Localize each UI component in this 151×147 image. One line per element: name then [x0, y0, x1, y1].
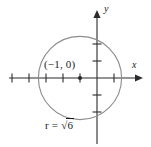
circle-graph-figure: (−1, 0) r = √6 x y — [0, 0, 151, 147]
radius-radicand: 6 — [66, 118, 74, 131]
center-point-label: (−1, 0) — [44, 59, 75, 70]
x-axis-group — [9, 74, 143, 83]
radius-label: r = √6 — [45, 120, 74, 131]
y-axis-group — [93, 10, 102, 144]
y-axis-arrowhead — [93, 10, 100, 18]
center-point-marker — [78, 76, 82, 80]
graph-canvas — [0, 0, 151, 147]
radius-label-prefix: r = — [45, 119, 61, 131]
x-axis-arrowhead — [135, 74, 143, 81]
x-axis-label: x — [132, 60, 136, 70]
y-axis-label: y — [104, 4, 108, 14]
